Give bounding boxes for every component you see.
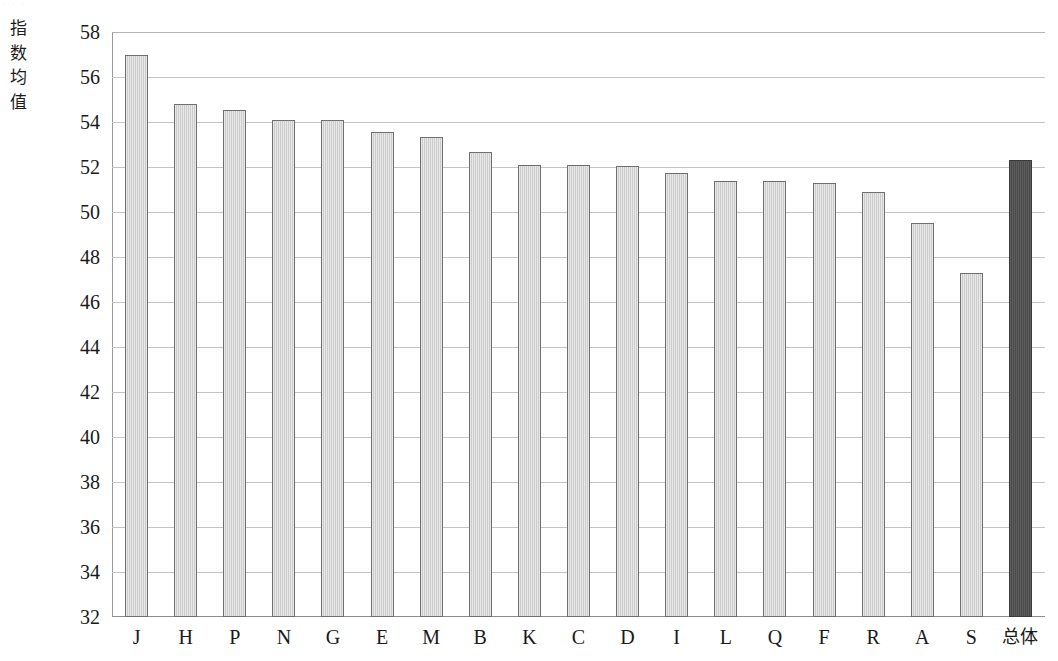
y-axis-tick-label: 44 (54, 337, 100, 357)
x-axis-tick-label: C (554, 622, 603, 652)
x-axis-tick-label: K (505, 622, 554, 652)
x-axis-tick-label: P (210, 622, 259, 652)
y-axis-tick-label: 54 (54, 112, 100, 132)
x-axis-tick-label: D (603, 622, 652, 652)
x-axis-tick-label: H (161, 622, 210, 652)
x-axis-tick-label: B (456, 622, 505, 652)
y-axis-tick-label: 50 (54, 202, 100, 222)
x-axis-tick-label: R (849, 622, 898, 652)
bar (371, 132, 394, 617)
bar (321, 120, 344, 617)
bar (567, 165, 590, 617)
x-axis-tick-label: E (358, 622, 407, 652)
bar (272, 120, 295, 617)
x-axis-tick-label: F (799, 622, 848, 652)
x-axis-tick-label: N (259, 622, 308, 652)
x-axis-tick-label: I (652, 622, 701, 652)
y-axis-title-char: 值 (6, 90, 30, 115)
y-axis-tick-label: 36 (54, 517, 100, 537)
y-axis-tick-label: 52 (54, 157, 100, 177)
bar (420, 137, 443, 617)
plot-area (112, 32, 1045, 617)
bar (813, 183, 836, 617)
cropped-text-sliver: ，，， (0, 0, 1058, 5)
y-axis-tick-label: 48 (54, 247, 100, 267)
bar (469, 152, 492, 617)
y-axis-title-char: 均 (6, 65, 30, 90)
bar (616, 166, 639, 617)
x-axis-tick-labels: JHPNGEMBKCDILQFRAS总体 (112, 622, 1045, 660)
x-axis-tick-label: M (407, 622, 456, 652)
y-axis-tick-label: 42 (54, 382, 100, 402)
x-axis-tick-label: A (898, 622, 947, 652)
x-axis-tick-label: S (947, 622, 996, 652)
x-axis-tick-label: G (308, 622, 357, 652)
y-axis-tick-label: 56 (54, 67, 100, 87)
y-axis-tick-label: 40 (54, 427, 100, 447)
bar (125, 55, 148, 618)
bar (174, 104, 197, 617)
bar (763, 181, 786, 618)
y-axis-title: 指 数 均 值 (6, 16, 30, 114)
bar (960, 273, 983, 617)
y-axis-tick-label: 34 (54, 562, 100, 582)
bar (665, 173, 688, 617)
x-axis-tick-label: 总体 (996, 622, 1045, 652)
bar-series (112, 32, 1045, 617)
bar-chart-figure: ，，， 指 数 均 值 5856545250484644424038363432… (0, 0, 1058, 661)
bar (911, 223, 934, 617)
y-axis-tick-label: 38 (54, 472, 100, 492)
y-axis-title-char: 指 (6, 16, 30, 41)
x-axis-tick-label: L (701, 622, 750, 652)
y-axis-tick-label: 46 (54, 292, 100, 312)
bar (714, 181, 737, 618)
y-axis-tick-label: 32 (54, 607, 100, 627)
y-axis-tick-labels: 5856545250484644424038363432 (46, 32, 100, 617)
bar (1009, 160, 1032, 617)
y-axis-title-char: 数 (6, 41, 30, 66)
bar (518, 165, 541, 617)
x-axis-tick-label: Q (750, 622, 799, 652)
y-axis-tick-label: 58 (54, 22, 100, 42)
x-axis-tick-label: J (112, 622, 161, 652)
bar (862, 192, 885, 617)
bar (223, 110, 246, 617)
